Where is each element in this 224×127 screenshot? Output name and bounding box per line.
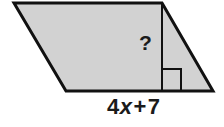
base-label: 4x+7	[107, 96, 161, 118]
height-label: ?	[139, 32, 152, 53]
base-coefficient: 4	[107, 94, 120, 119]
geometry-figure: ? 4x+7	[0, 0, 224, 127]
base-variable: x	[120, 94, 133, 119]
base-constant: 7	[148, 94, 161, 119]
parallelogram-shape	[14, 3, 213, 91]
base-operator: +	[133, 94, 148, 119]
